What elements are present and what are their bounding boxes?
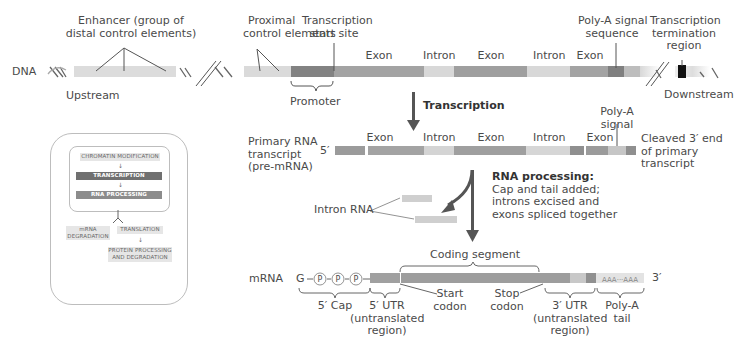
polya-tail-text: AAA···AAA — [596, 274, 644, 287]
dna-break-right — [646, 62, 669, 86]
overview-translation: TRANSLATION — [117, 226, 163, 234]
pre-polya-label: Poly-A signal — [594, 106, 640, 131]
cap-g: G — [296, 273, 305, 286]
pre-intron-1 — [424, 146, 454, 155]
processing-arrow — [441, 170, 479, 242]
pre-polya-region — [608, 146, 626, 155]
coding-bar — [401, 273, 544, 283]
start-line1: Start — [430, 288, 470, 301]
five-prime-label: 5′ — [320, 145, 330, 158]
stop-codon-label: Stop codon — [487, 288, 527, 313]
pre-cleaved-end — [626, 146, 636, 155]
mrna-deg-line2: DEGRADATION — [66, 233, 110, 240]
pre-intron-2 — [526, 146, 570, 155]
phosphate-label: P — [350, 274, 362, 287]
arrow-down-icon: ↓ — [138, 237, 143, 243]
start-codon-label: Start codon — [430, 288, 470, 313]
intron-rna-1 — [402, 195, 432, 202]
overview-protein-processing: PROTEIN PROCESSING AND DEGRADATION — [108, 247, 172, 262]
intron-rna-label: Intron RNA — [314, 204, 373, 217]
utr5-label: 5′ UTR (untranslated region) — [350, 300, 424, 338]
processing-text: RNA processing: Cap and tail added; intr… — [492, 171, 617, 221]
stop-line2: codon — [487, 301, 527, 314]
utr3-label: 3′ UTR (untranslated region) — [533, 300, 607, 338]
start-line2: codon — [430, 301, 470, 314]
phosphate-label: P — [332, 274, 344, 287]
utr5-line1: 5′ UTR — [350, 300, 424, 313]
utr3-line1: 3′ UTR — [533, 300, 607, 313]
cleaved-line1: Cleaved 3′ end — [641, 133, 723, 146]
processing-title: RNA processing: — [492, 171, 617, 184]
utr3-bar-a — [544, 273, 570, 283]
three-prime-label: 3′ — [652, 272, 662, 285]
transcription-arrow — [407, 92, 420, 131]
polya-tail-line2: tail — [600, 313, 644, 326]
polya-tail-label: Poly-A tail — [600, 300, 644, 325]
pre-polya-line2: signal — [594, 119, 640, 132]
utr5-line3: region) — [350, 325, 424, 338]
pre-seg-label: Exon — [585, 132, 615, 145]
pre-mrna-label: Primary RNA transcript (pre-mRNA) — [248, 136, 317, 174]
dna-break-left — [196, 61, 221, 86]
pre-polya-line1: Poly-A — [594, 106, 640, 119]
coding-segment-label: Coding segment — [430, 249, 520, 262]
phosphate-label: P — [314, 274, 326, 287]
pre-seg-label: Intron — [423, 132, 455, 145]
processing-line3: exons spliced together — [492, 209, 617, 222]
overview-mrna-degradation: mRNA DEGRADATION — [66, 226, 110, 240]
dna-helix-right — [656, 68, 718, 78]
pre-mrna-label-line1: Primary RNA — [248, 136, 317, 149]
cleaved-line3: transcript — [641, 158, 723, 171]
pre-seg-label: Exon — [476, 132, 506, 145]
polya-tail-line1: Poly-A — [600, 300, 644, 313]
utr3-line3: region) — [533, 325, 607, 338]
utr5-bar — [370, 273, 400, 283]
protein-line2: AND DEGRADATION — [108, 254, 172, 261]
pre-exon-0 — [335, 146, 365, 155]
overview-outer-box: CHROMATIN MODIFICATION ↓ TRANSCRIPTION ↓… — [50, 133, 188, 305]
pre-seg-label: Intron — [533, 132, 565, 145]
pre-mrna-label-line3: (pre-mRNA) — [248, 161, 317, 174]
utr3-bar-c — [586, 273, 596, 283]
fork-arrow-icon — [51, 134, 187, 304]
transcription-label: Transcription — [423, 100, 505, 113]
intron-rna-2 — [415, 216, 457, 223]
pre-exon-2 — [454, 146, 526, 155]
mrna-label: mRNA — [249, 273, 283, 286]
processing-line2: introns excised and — [492, 196, 617, 209]
stop-line1: Stop — [487, 288, 527, 301]
utr3-bar-b — [570, 273, 586, 283]
protein-line1: PROTEIN PROCESSING — [108, 247, 172, 254]
pre-exon-1 — [368, 146, 424, 155]
pre-exon-3b — [586, 146, 608, 155]
cleaved-end-label: Cleaved 3′ end of primary transcript — [641, 133, 723, 171]
pre-exon-3a — [570, 146, 584, 155]
pre-seg-label: Exon — [365, 132, 395, 145]
